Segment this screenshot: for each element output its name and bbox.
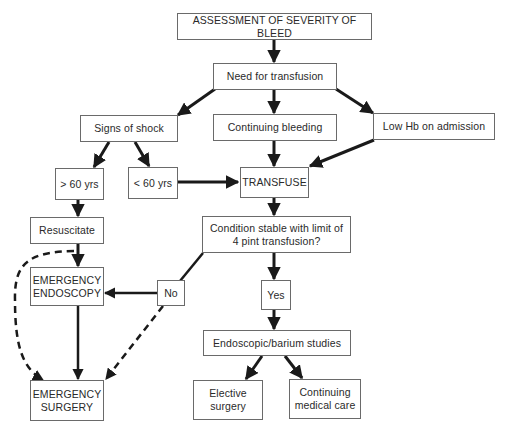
node-assessment: ASSESSMENT OF SEVERITY OF BLEED — [177, 13, 372, 40]
node-yes: Yes — [261, 280, 291, 310]
arrow-shock-to-over60 — [94, 142, 109, 167]
node-over-60-label: > 60 yrs — [60, 178, 98, 191]
node-yes-label: Yes — [267, 289, 284, 302]
node-low-hb-label: Low Hb on admission — [383, 120, 485, 133]
node-under-60: < 60 yrs — [128, 167, 178, 199]
node-no: No — [157, 280, 185, 306]
node-no-label: No — [164, 287, 178, 300]
node-condition-stable: Condition stable with limit of 4 pint tr… — [202, 216, 351, 253]
node-continuing-medical-care: Continuing medical care — [289, 379, 361, 419]
arrow-lowhb-to-transfuse — [310, 140, 374, 166]
arrow-endoscopic-to-elective — [246, 356, 262, 379]
node-continuing-bleeding: Continuing bleeding — [213, 114, 337, 141]
dashed-arrow-no-to-surgery — [106, 306, 163, 379]
node-over-60: > 60 yrs — [55, 168, 104, 200]
arrow-shock-to-under60 — [135, 142, 149, 166]
arrow-need-to-shock — [178, 89, 215, 115]
node-signs-of-shock: Signs of shock — [80, 115, 178, 142]
node-continuing-bleeding-label: Continuing bleeding — [228, 121, 323, 134]
node-elective-surgery-label: Elective surgery — [209, 387, 247, 413]
node-resuscitate: Resuscitate — [30, 217, 104, 244]
node-emergency-surgery-label: EMERGENCY SURGERY — [33, 388, 102, 414]
node-condition-stable-label: Condition stable with limit of 4 pint tr… — [210, 222, 343, 248]
node-elective-surgery: Elective surgery — [193, 380, 263, 420]
arrow-endoscopic-to-care — [285, 356, 302, 378]
arrow-need-to-lowhb — [336, 89, 373, 113]
node-signs-of-shock-label: Signs of shock — [94, 122, 164, 135]
line-condition-to-no — [180, 253, 203, 281]
node-endoscopic-barium-label: Endoscopic/barium studies — [213, 337, 341, 350]
node-transfuse: TRANSFUSE — [240, 167, 309, 198]
node-continuing-medical-care-label: Continuing medical care — [295, 386, 356, 412]
node-emergency-endoscopy-label: EMERGENCY ENDOSCOPY — [33, 274, 102, 300]
node-need-transfusion-label: Need for transfusion — [227, 70, 324, 83]
node-emergency-surgery: EMERGENCY SURGERY — [30, 380, 104, 421]
node-need-transfusion: Need for transfusion — [213, 63, 337, 90]
node-emergency-endoscopy: EMERGENCY ENDOSCOPY — [30, 267, 104, 306]
node-endoscopic-barium: Endoscopic/barium studies — [203, 330, 351, 356]
node-assessment-label: ASSESSMENT OF SEVERITY OF BLEED — [178, 14, 371, 40]
node-low-hb: Low Hb on admission — [373, 113, 495, 140]
node-resuscitate-label: Resuscitate — [39, 224, 95, 237]
node-under-60-label: < 60 yrs — [134, 177, 172, 190]
node-transfuse-label: TRANSFUSE — [242, 176, 307, 189]
